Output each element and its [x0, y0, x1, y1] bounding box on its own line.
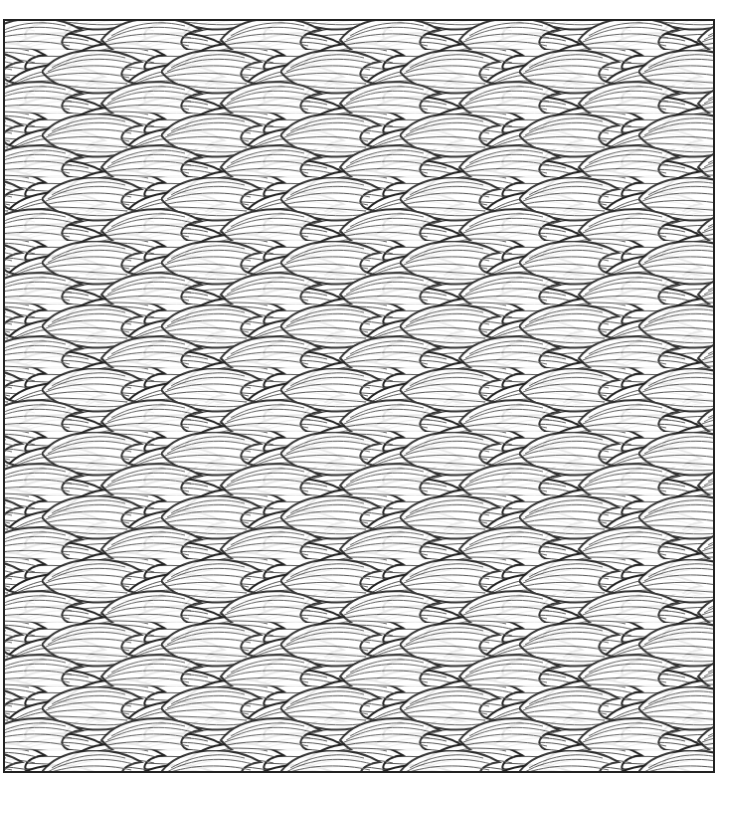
- page-canvas: [0, 0, 755, 816]
- artwork-frame: [3, 19, 715, 773]
- leaf-pattern-illustration: [5, 21, 713, 771]
